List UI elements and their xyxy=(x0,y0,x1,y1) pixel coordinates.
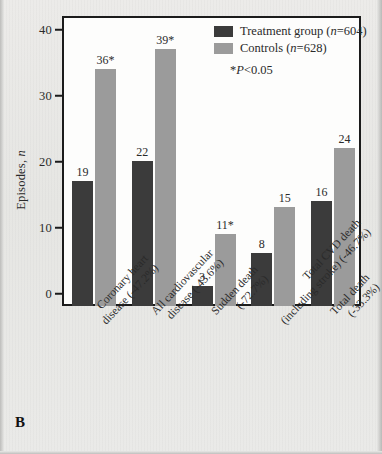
y-axis-tick-label: 20 xyxy=(39,155,52,168)
bar-value-label: 24 xyxy=(339,132,351,147)
panel-letter: B xyxy=(15,414,25,431)
y-axis-tick: 40 xyxy=(39,24,62,37)
y-axis-tick-label: 40 xyxy=(39,24,52,37)
bar-value-label: 16 xyxy=(316,185,328,200)
y-axis-tick: 10 xyxy=(39,221,62,234)
page-edge-left xyxy=(0,0,4,454)
y-axis-tick-mark xyxy=(55,227,62,229)
y-axis-title-italic: n xyxy=(14,150,28,156)
y-axis-tick-label: 0 xyxy=(46,287,52,300)
legend-label: Controls (n=628) xyxy=(240,41,327,55)
figure-panel: Episodes, n 010203040 1936*2239*311*8151… xyxy=(0,0,382,454)
bar-control[interactable]: 36* xyxy=(95,69,116,306)
y-axis-tick-mark xyxy=(55,161,62,163)
bar-value-label: 11* xyxy=(216,218,234,233)
legend-swatch-treatment xyxy=(214,26,233,37)
x-axis-labels: Coronary heartdisease (-47.2%)All cardio… xyxy=(62,308,361,438)
bar-group: 1936* xyxy=(72,16,116,306)
y-axis-tick-mark xyxy=(55,95,62,97)
bar-treatment[interactable]: 19 xyxy=(72,181,93,306)
y-axis-tick-mark xyxy=(55,29,62,31)
y-axis-tick: 0 xyxy=(46,287,62,300)
y-axis-tick: 30 xyxy=(39,90,62,103)
y-axis-title: Episodes, n xyxy=(14,150,29,210)
bar-value-label: 39* xyxy=(156,33,174,48)
legend-item[interactable]: Treatment group (n=604) xyxy=(214,24,367,38)
chart-legend: Treatment group (n=604)Controls (n=628) … xyxy=(214,24,367,78)
bar-value-label: 8 xyxy=(259,237,265,252)
bar-value-label: 22 xyxy=(136,145,148,160)
bar-value-label: 36* xyxy=(96,53,114,68)
legend-significance-note: *P<0.05 xyxy=(230,63,367,78)
page-edge-right xyxy=(377,0,382,454)
y-axis-tick-label: 10 xyxy=(39,221,52,234)
legend-label: Treatment group (n=604) xyxy=(240,24,367,38)
y-axis-title-text: Episodes, xyxy=(14,156,28,209)
y-axis-tick-mark xyxy=(55,293,62,295)
y-axis-tick-label: 30 xyxy=(39,90,52,103)
bar-value-label: 19 xyxy=(76,165,88,180)
bar-value-label: 15 xyxy=(279,191,291,206)
legend-item[interactable]: Controls (n=628) xyxy=(214,41,367,55)
y-axis-tick: 20 xyxy=(39,155,62,168)
legend-swatch-control xyxy=(214,43,233,54)
legend-rows: Treatment group (n=604)Controls (n=628) xyxy=(214,24,367,56)
